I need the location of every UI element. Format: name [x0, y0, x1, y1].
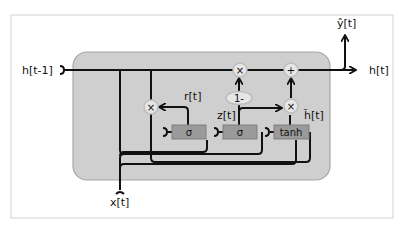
z-signal-label: z[t] [217, 109, 236, 122]
r-signal-label: r[t] [184, 90, 201, 103]
y-hat-label: ŷ[t] [337, 17, 356, 30]
x-input-label: x[t] [110, 196, 129, 209]
candidate-gate-label: tanh [280, 127, 303, 138]
reset-multiply-symbol: × [147, 102, 155, 113]
add-symbol: + [287, 65, 295, 76]
gru-diagram: σ σ tanh × × + × 1- h[t-1] h[t] ŷ[t] x[t… [0, 0, 403, 226]
keep-multiply-symbol: × [236, 65, 244, 76]
h-prev-label: h[t-1] [22, 64, 53, 77]
h-tilde-signal-label: h̃[t] [303, 109, 324, 122]
one-minus-symbol: 1- [234, 93, 244, 104]
h-output-label: h[t] [369, 64, 389, 77]
candidate-multiply-symbol: × [287, 101, 295, 112]
reset-gate-label: σ [186, 127, 193, 138]
update-gate-label: σ [237, 127, 244, 138]
